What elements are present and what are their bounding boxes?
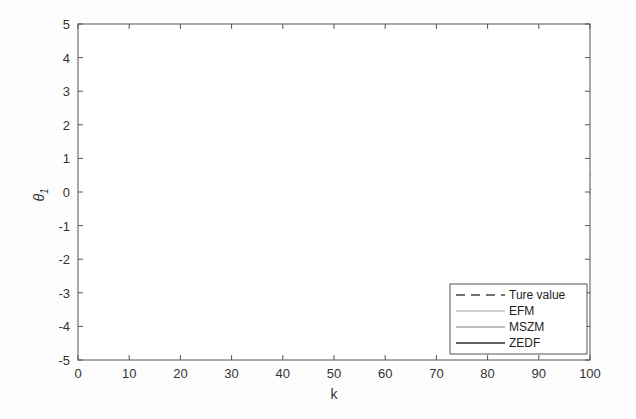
x-tick-label: 100	[579, 366, 601, 381]
y-tick-label: 1	[63, 151, 70, 166]
x-tick-label: 90	[532, 366, 546, 381]
y-tick-label: -5	[58, 353, 70, 368]
legend-label-zedf: ZEDF	[509, 336, 540, 350]
y-tick-label: 3	[63, 84, 70, 99]
svg-text:θ1: θ1	[31, 188, 50, 201]
x-tick-label: 0	[74, 366, 81, 381]
x-tick-label: 10	[122, 366, 136, 381]
y-tick-label: 0	[63, 185, 70, 200]
legend: Ture value EFM MSZM ZEDF	[450, 284, 587, 354]
y-axis-label: θ1	[31, 188, 50, 201]
legend-label-efm: EFM	[509, 304, 534, 318]
x-tick-label: 70	[429, 366, 443, 381]
x-tick-label: 30	[224, 366, 238, 381]
y-tick-label: -4	[58, 319, 70, 334]
y-tick-label: 4	[63, 51, 70, 66]
x-tick-label: 50	[327, 366, 341, 381]
x-tick-label: 40	[276, 366, 290, 381]
y-tick-label: 5	[63, 17, 70, 32]
x-tick-label: 20	[173, 366, 187, 381]
y-tick-label: -2	[58, 252, 70, 267]
legend-label-true-value: Ture value	[509, 288, 566, 302]
y-tick-label: -3	[58, 286, 70, 301]
y-axis-label-sub: 1	[39, 188, 50, 194]
x-tick-label: 80	[480, 366, 494, 381]
x-axis-label: k	[331, 386, 339, 402]
y-tick-label: -1	[58, 219, 70, 234]
chart: 0102030405060708090100-5-4-3-2-1012345 k…	[0, 0, 636, 419]
legend-label-mszm: MSZM	[509, 320, 544, 334]
y-tick-label: 2	[63, 118, 70, 133]
x-tick-label: 60	[378, 366, 392, 381]
